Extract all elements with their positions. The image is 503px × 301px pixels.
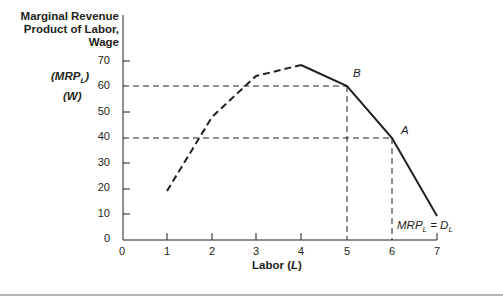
mrp-demand-curve [301, 65, 437, 216]
curve-label-mrp-equals-d: MRPL = DL [397, 219, 453, 234]
point-b-label: B [353, 67, 361, 79]
point-a-label: A [401, 124, 409, 136]
bottom-divider [0, 294, 503, 296]
curve-d-sub: L [448, 225, 452, 234]
chart-plot [0, 0, 503, 301]
reference-lines [123, 86, 392, 240]
curve-mrp-text: MRP [397, 219, 423, 231]
curve-eq-text: = D [427, 219, 448, 231]
mrp-rising-curve [167, 65, 301, 191]
